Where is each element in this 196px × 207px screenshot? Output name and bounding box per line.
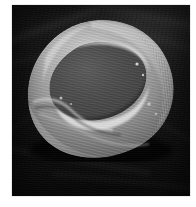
membrane-granule [155,113,158,116]
membrane-granule [60,97,63,100]
electron-micrograph-image [12,5,190,196]
red-blood-cell [25,18,177,162]
red-blood-cell-shape [25,18,177,162]
membrane-granule [70,103,72,105]
membrane-granule [147,102,151,106]
membrane-granule [142,74,144,76]
membrane-granule [135,62,138,65]
page-canvas [0,0,196,207]
